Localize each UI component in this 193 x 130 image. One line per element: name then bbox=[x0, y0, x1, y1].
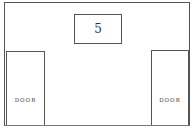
door-right[interactable]: DOOR bbox=[151, 50, 189, 125]
room-number: 5 bbox=[94, 22, 102, 36]
room-number-sign: 5 bbox=[74, 14, 122, 44]
door-left[interactable]: DOOR bbox=[6, 51, 45, 125]
door-left-label: DOOR bbox=[15, 97, 37, 103]
door-right-label: DOOR bbox=[159, 97, 181, 103]
